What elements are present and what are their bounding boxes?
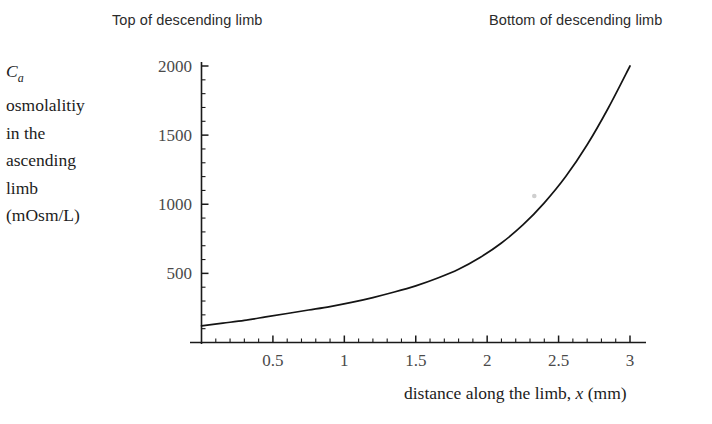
- y-tick-label: 2000: [158, 57, 192, 76]
- data-curve-ca-osmolality: [202, 66, 631, 326]
- chart-figure: Top of descending limb Bottom of descend…: [0, 0, 712, 424]
- y-tick-label: 500: [167, 264, 193, 283]
- y-tick-label-group: 500100015002000: [158, 57, 192, 283]
- plot-area: 500100015002000 0.511.522.53: [0, 0, 712, 424]
- x-tick-label: 1: [340, 351, 349, 370]
- x-tick-label: 0.5: [262, 351, 283, 370]
- x-tick-label: 3: [626, 351, 635, 370]
- x-tick-label: 2.5: [548, 351, 569, 370]
- x-tick-label: 1.5: [405, 351, 426, 370]
- tick-mark-group: [202, 66, 631, 343]
- x-tick-label: 2: [483, 351, 492, 370]
- y-tick-label: 1500: [158, 126, 192, 145]
- x-tick-label-group: 0.511.522.53: [262, 351, 634, 370]
- y-tick-label: 1000: [158, 195, 192, 214]
- curve-marker-artifact: [532, 194, 537, 199]
